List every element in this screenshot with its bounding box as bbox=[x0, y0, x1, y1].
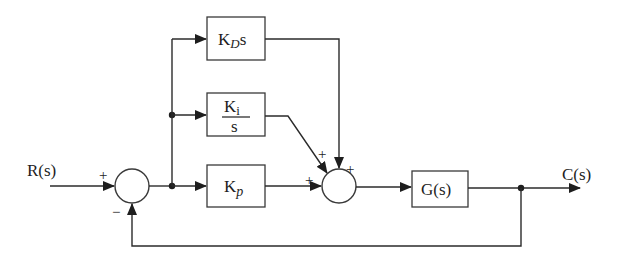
error-sum-plus-sign: + bbox=[99, 167, 107, 183]
input-label: R(s) bbox=[27, 161, 56, 180]
derivative-output-path bbox=[265, 39, 339, 168]
error-summing-junction bbox=[115, 169, 149, 203]
integral-plus-sign: + bbox=[318, 146, 326, 162]
integral-output-path bbox=[265, 116, 327, 173]
error-sum-minus-sign: − bbox=[112, 204, 120, 220]
integral-gain-denominator: s bbox=[231, 117, 238, 136]
output-label: C(s) bbox=[562, 165, 591, 184]
proportional-plus-sign: + bbox=[305, 172, 313, 188]
plant-label: G(s) bbox=[421, 180, 451, 199]
derivative-plus-sign: + bbox=[346, 161, 354, 177]
pid-block-diagram: R(s) + − KDs Ki s Kp + + + G(s) C(s) bbox=[0, 0, 625, 265]
